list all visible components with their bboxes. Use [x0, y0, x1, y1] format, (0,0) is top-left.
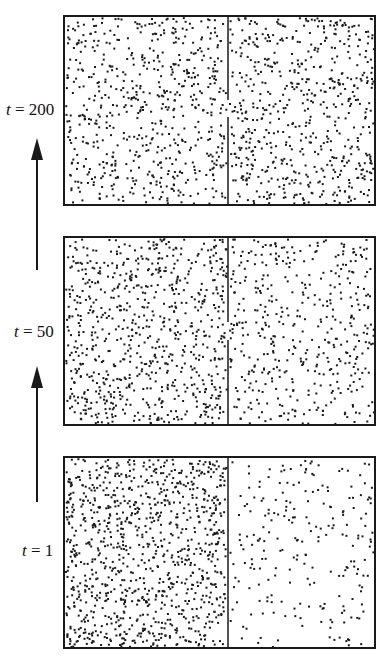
- particle: [106, 317, 108, 319]
- particle: [151, 122, 153, 124]
- particle: [94, 95, 96, 97]
- particle: [151, 23, 153, 25]
- particle: [349, 355, 351, 357]
- particle: [120, 570, 122, 572]
- particle: [140, 476, 142, 478]
- particle: [112, 276, 114, 278]
- particle: [120, 252, 122, 254]
- particle: [196, 497, 198, 499]
- particle: [180, 248, 182, 250]
- particle: [153, 618, 155, 620]
- particle: [122, 599, 124, 601]
- particle: [133, 460, 135, 462]
- particle: [245, 141, 247, 143]
- particle: [287, 239, 289, 241]
- particle: [368, 496, 370, 498]
- particle: [71, 393, 73, 395]
- particle: [104, 291, 106, 293]
- particle: [112, 403, 114, 405]
- particle: [107, 459, 109, 461]
- particle: [333, 169, 335, 171]
- particle: [78, 368, 80, 370]
- particle: [246, 118, 248, 120]
- particle: [93, 611, 95, 613]
- particle: [91, 489, 93, 491]
- particle: [87, 262, 89, 264]
- particle: [172, 463, 174, 465]
- particle: [213, 246, 215, 248]
- particle: [153, 470, 155, 472]
- particle: [264, 82, 266, 84]
- particle: [337, 95, 339, 97]
- particle: [335, 272, 337, 274]
- particle: [193, 53, 195, 55]
- particle: [98, 506, 100, 508]
- particle: [90, 546, 92, 548]
- particle: [213, 497, 215, 499]
- particle: [333, 157, 335, 159]
- particle: [120, 481, 122, 483]
- particle: [243, 136, 245, 138]
- particle: [146, 593, 148, 595]
- particle: [171, 482, 173, 484]
- particle: [145, 104, 147, 106]
- particle: [242, 626, 244, 628]
- particle: [316, 82, 318, 84]
- particle: [124, 500, 126, 502]
- particle: [368, 464, 370, 466]
- particle: [269, 66, 271, 68]
- particle: [164, 504, 166, 506]
- particle: [236, 200, 238, 202]
- particle: [242, 334, 244, 336]
- particle: [331, 164, 333, 166]
- particle: [116, 525, 118, 527]
- particle: [206, 289, 208, 291]
- particle: [341, 72, 343, 74]
- particle: [331, 47, 333, 49]
- particle: [133, 160, 135, 162]
- particle: [241, 77, 243, 79]
- particle: [101, 625, 103, 627]
- particle: [217, 622, 219, 624]
- particle: [182, 28, 184, 30]
- particle: [209, 405, 211, 407]
- particle: [351, 391, 353, 393]
- particle: [230, 20, 232, 22]
- particle: [82, 363, 84, 365]
- particle: [123, 308, 125, 310]
- particle: [92, 526, 94, 528]
- particle: [349, 105, 351, 107]
- particle: [309, 584, 311, 586]
- particle: [309, 119, 311, 121]
- particle: [200, 38, 202, 40]
- particle: [109, 515, 111, 517]
- particle: [324, 40, 326, 42]
- particle: [151, 475, 153, 477]
- particle: [264, 306, 266, 308]
- particle: [332, 309, 334, 311]
- particle: [347, 388, 349, 390]
- particle: [367, 42, 369, 44]
- particle: [83, 517, 85, 519]
- particle: [270, 418, 272, 420]
- particle: [356, 356, 358, 358]
- particle: [251, 558, 253, 560]
- particle: [149, 517, 151, 519]
- particle: [161, 622, 163, 624]
- particle: [360, 133, 362, 135]
- particle: [250, 614, 252, 616]
- particle: [300, 464, 302, 466]
- particle: [303, 413, 305, 415]
- particle: [243, 355, 245, 357]
- particle: [289, 502, 291, 504]
- particle: [244, 562, 246, 564]
- particle: [98, 413, 100, 415]
- particle: [238, 265, 240, 267]
- particle: [96, 316, 98, 318]
- particle: [79, 296, 81, 298]
- particle: [142, 596, 144, 598]
- particle: [314, 304, 316, 306]
- particle: [366, 77, 368, 79]
- particle: [140, 632, 142, 634]
- particle: [134, 508, 136, 510]
